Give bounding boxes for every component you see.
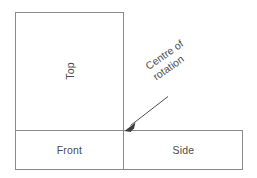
view-label-side-text: Side [173, 144, 195, 156]
view-label-front-text: Front [57, 144, 83, 156]
arrow-shaft [131, 97, 169, 126]
view-label-top-text: Top [63, 63, 75, 81]
centre-of-rotation-arrow [125, 97, 169, 133]
view-label-top: Top [15, 12, 124, 131]
diagram-canvas: Top Front Side Centre of rotation [0, 0, 257, 178]
view-label-front: Front [15, 131, 124, 170]
view-label-side: Side [124, 131, 243, 170]
